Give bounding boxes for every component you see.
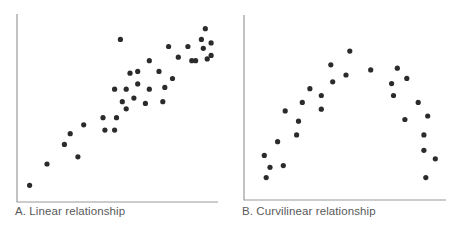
data-point — [264, 175, 269, 180]
data-point — [205, 56, 210, 61]
data-point — [203, 26, 208, 31]
data-point — [416, 100, 421, 105]
data-point — [147, 58, 152, 63]
data-point — [209, 53, 214, 58]
data-point — [170, 76, 175, 81]
data-point — [421, 148, 426, 153]
data-point — [421, 132, 426, 137]
data-point — [395, 66, 400, 71]
data-point — [402, 117, 407, 122]
data-point — [193, 58, 198, 63]
data-point — [294, 132, 299, 137]
scatter-plot-linear — [0, 0, 229, 205]
data-point — [112, 128, 117, 133]
data-point — [143, 101, 148, 106]
data-point — [176, 55, 181, 60]
caption-linear: A. Linear relationship — [15, 205, 125, 217]
data-point — [135, 81, 140, 86]
data-point — [160, 99, 165, 104]
data-point — [185, 44, 190, 49]
data-point — [27, 183, 32, 188]
data-point — [330, 79, 335, 84]
data-point — [347, 49, 352, 54]
scatter-plot-curvilinear — [229, 0, 459, 205]
data-point — [389, 81, 394, 86]
data-point — [343, 72, 348, 77]
scatter-panel-curvilinear: B. Curvilinear relationship — [229, 0, 458, 225]
scatter-panel-linear: A. Linear relationship — [0, 0, 229, 225]
data-point — [300, 100, 305, 105]
data-point — [124, 87, 129, 92]
data-point — [319, 107, 324, 112]
data-point — [267, 165, 272, 170]
data-point — [68, 131, 73, 136]
data-point — [423, 175, 428, 180]
data-point — [209, 40, 214, 45]
data-point — [127, 71, 132, 76]
data-point — [275, 139, 280, 144]
data-point — [433, 156, 438, 161]
data-point — [162, 85, 167, 90]
data-point — [328, 62, 333, 67]
data-point — [81, 122, 86, 127]
data-point — [368, 67, 373, 72]
data-point — [102, 128, 107, 133]
data-point — [120, 99, 125, 104]
data-point — [44, 161, 49, 166]
data-point — [319, 93, 324, 98]
data-point — [391, 93, 396, 98]
data-point — [296, 119, 301, 124]
data-point — [283, 108, 288, 113]
data-point — [166, 44, 171, 49]
data-point — [199, 37, 204, 42]
caption-curvilinear: B. Curvilinear relationship — [242, 205, 376, 217]
data-point — [100, 115, 105, 120]
data-point — [124, 106, 129, 111]
data-point — [147, 87, 152, 92]
data-point — [131, 96, 136, 101]
data-point — [262, 153, 267, 158]
axis-lines — [17, 14, 218, 202]
data-point — [75, 154, 80, 159]
data-point — [114, 115, 119, 120]
data-point — [201, 46, 206, 51]
data-point — [425, 113, 430, 118]
data-point — [112, 87, 117, 92]
axis-lines — [244, 15, 446, 200]
data-point — [281, 163, 286, 168]
data-point — [118, 37, 123, 42]
data-point — [62, 142, 67, 147]
data-point — [156, 69, 161, 74]
data-point — [135, 69, 140, 74]
data-point — [404, 76, 409, 81]
data-point — [307, 86, 312, 91]
